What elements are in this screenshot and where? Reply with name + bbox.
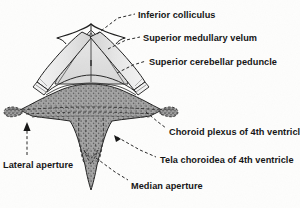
- label-lateral-aperture: Lateral aperture: [3, 160, 73, 170]
- tela-choroidea-body: [20, 83, 162, 190]
- label-superior-cerebellar-peduncle: Superior cerebellar peduncle: [149, 57, 277, 67]
- left-lateral-aperture: [4, 107, 22, 117]
- label-choroid-plexus: Choroid plexus of 4th ventricle: [169, 127, 300, 137]
- right-lateral-aperture: [160, 107, 178, 117]
- label-median-aperture: Median aperture: [131, 181, 203, 191]
- label-superior-medullary-velum: Superior medullary velum: [143, 33, 257, 43]
- lateral-aperture-arrowhead: [23, 122, 30, 131]
- diagram-canvas: Inferior colliculus Superior medullary v…: [0, 0, 300, 208]
- leader-tela-choroidea: [117, 137, 156, 157]
- leader-median-aperture: [96, 158, 128, 180]
- leader-inferior-colliculus: [97, 14, 135, 34]
- tela-choroidea-arrowhead: [114, 135, 121, 142]
- anatomical-figure: Inferior colliculus Superior medullary v…: [0, 0, 300, 208]
- label-tela-choroidea: Tela choroidea of 4th ventricle: [160, 155, 294, 165]
- label-inferior-colliculus: Inferior colliculus: [138, 10, 216, 20]
